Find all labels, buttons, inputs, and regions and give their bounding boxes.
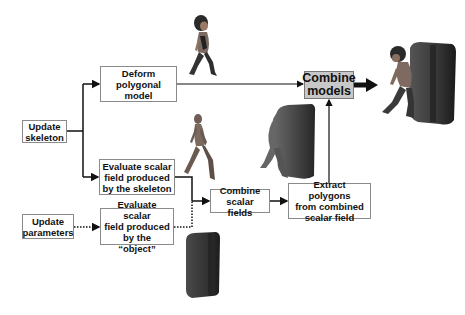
- character-walking-image: [185, 14, 225, 80]
- update-skeleton-label: Update skeleton: [25, 121, 64, 143]
- deform-polygonal-model-label: Deform polygonal model: [116, 68, 161, 101]
- diagram-canvas: Update skeleton Deform polygonal model E…: [0, 0, 465, 315]
- evaluate-object-field-label: Evaluate scalar field produced by the “o…: [103, 199, 171, 254]
- evaluate-object-field-node: Evaluate scalar field produced by the “o…: [100, 208, 174, 245]
- combine-models-node: Combine models: [304, 71, 354, 99]
- combine-scalar-fields-node: Combine scalar fields: [210, 189, 270, 213]
- box-object-image: [182, 232, 222, 298]
- deform-polygonal-model-node: Deform polygonal model: [100, 66, 177, 102]
- extract-polygons-node: Extract polygons from combined scalar fi…: [288, 183, 371, 219]
- evaluate-skeleton-field-label: Evaluate scalar field produced by the sk…: [102, 161, 171, 194]
- character-colliding-with-box-image: [380, 40, 460, 128]
- update-parameters-node: Update parameters: [22, 214, 74, 239]
- evaluate-skeleton-field-node: Evaluate scalar field produced by the sk…: [99, 159, 175, 195]
- combine-scalar-fields-label: Combine scalar fields: [213, 185, 267, 218]
- extract-polygons-label: Extract polygons from combined scalar fi…: [291, 179, 368, 223]
- combine-models-label: Combine models: [302, 72, 355, 98]
- blended-implicit-surface-image: [258, 104, 318, 182]
- update-skeleton-node: Update skeleton: [22, 120, 67, 143]
- skeleton-implicit-surface-image: [180, 112, 224, 184]
- update-parameters-label: Update parameters: [22, 216, 73, 238]
